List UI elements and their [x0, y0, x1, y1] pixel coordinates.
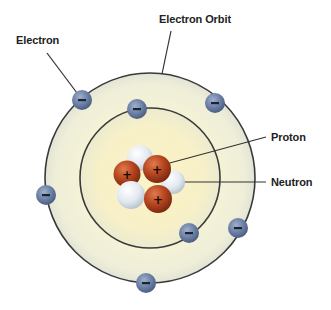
electron-sphere	[179, 223, 199, 243]
minus-icon	[185, 232, 193, 234]
atom-diagram: + + +	[0, 0, 331, 310]
plus-icon: +	[153, 193, 163, 207]
proton-sphere: +	[144, 185, 172, 213]
proton-sphere: +	[143, 155, 171, 183]
electron-sphere	[36, 185, 56, 205]
neutron-sphere	[117, 181, 145, 209]
minus-icon	[78, 99, 86, 101]
electron-label: Electron	[16, 34, 59, 46]
electron-sphere	[136, 273, 156, 293]
electron-sphere	[228, 218, 248, 238]
proton-label: Proton	[271, 131, 306, 143]
minus-icon	[133, 108, 141, 110]
minus-icon	[142, 282, 150, 284]
electron-orbit-leader-line	[162, 31, 171, 74]
plus-icon: +	[122, 168, 132, 182]
electron-sphere	[72, 90, 92, 110]
electron-leader-line	[47, 53, 77, 93]
minus-icon	[234, 227, 242, 229]
neutron-label: Neutron	[271, 176, 312, 188]
minus-icon	[211, 102, 219, 104]
minus-icon	[42, 194, 50, 196]
electron-sphere	[205, 93, 225, 113]
plus-icon: +	[152, 163, 162, 177]
electron-orbit-label: Electron Orbit	[159, 13, 231, 25]
electron-sphere	[127, 99, 147, 119]
